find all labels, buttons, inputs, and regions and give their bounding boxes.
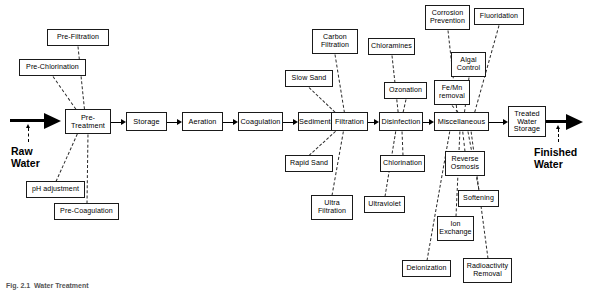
process-box-disinfection[interactable]: Disinfection	[379, 112, 423, 131]
fluoridation-label: Fluoridation	[480, 13, 518, 20]
finished-water-tick-stem	[558, 129, 559, 142]
process-box-miscellaneous[interactable]: Miscellaneous	[434, 112, 489, 131]
filtration-label: Filtration	[335, 118, 364, 126]
disinfection-label: Disinfection	[382, 118, 421, 126]
process-box-storage[interactable]: Storage	[126, 112, 167, 131]
chlorination-label: Chlorination	[383, 160, 422, 167]
aeration-label: Aeration	[189, 118, 217, 126]
corrosion-prevention-label: Corrosion Prevention	[430, 10, 465, 25]
rapid-sand-label: Rapid Sand	[290, 160, 328, 167]
process-box-filtration[interactable]: Filtration	[331, 112, 368, 131]
subprocess-box-pre-coagulation[interactable]: Pre-Coagulation	[54, 203, 119, 220]
subprocess-box-pre-chlorination[interactable]: Pre-Chlorination	[19, 59, 86, 76]
subprocess-box-reverse-osmosis[interactable]: Reverse Osmosis	[445, 151, 485, 176]
subprocess-box-ozonation[interactable]: Ozonation	[384, 82, 427, 99]
dashed-link-ultra-filtration-to-filtration	[332, 131, 344, 195]
finished-water-tick-arrow	[556, 125, 560, 129]
figure-caption: Fig. 2.1 Water Treatment	[6, 282, 89, 289]
dashed-link-pre-coagulation-to-pre-treatment	[86, 134, 88, 203]
dashed-link-carbon-filtration-to-filtration	[335, 54, 345, 112]
subprocess-box-algal-control[interactable]: Algal Control	[451, 52, 486, 77]
subprocess-box-corrosion-prevention[interactable]: Corrosion Prevention	[425, 5, 470, 30]
process-box-coagulation[interactable]: Coagulation	[238, 112, 283, 131]
carbon-filtration-label: Carbon Filtration	[321, 34, 349, 49]
dashed-link-chlorination-to-disinfection	[401, 131, 403, 155]
raw-water-inlet-line	[10, 119, 46, 122]
subprocess-box-ph-adjustment[interactable]: pH adjustment	[26, 181, 85, 198]
pre-coagulation-label: Pre-Coagulation	[60, 208, 113, 215]
raw-water-label: Raw Water	[11, 145, 40, 169]
finished-water-outlet-arrowhead	[566, 114, 583, 130]
dashed-link-ozonation-to-disinfection	[402, 99, 406, 112]
flow-arrow-miscellaneous-to-treated-water-storage	[489, 122, 504, 123]
storage-label: Storage	[133, 118, 159, 126]
process-box-aeration[interactable]: Aeration	[182, 112, 223, 131]
miscellaneous-label: Miscellaneous	[438, 118, 486, 126]
treated-water-storage-label: Treated Water Storage	[514, 110, 540, 133]
fe-mn-removal-label: Fe/Mn removal	[439, 85, 465, 100]
dashed-link-ph-adjustment-to-pre-treatment	[55, 134, 77, 181]
ph-adjustment-label: pH adjustment	[32, 186, 79, 193]
ultraviolet-label: Ultraviolet	[368, 201, 401, 208]
subprocess-box-rapid-sand[interactable]: Rapid Sand	[285, 155, 333, 172]
subprocess-box-radioactivity-removal[interactable]: Radioactivity Removal	[463, 258, 512, 283]
ultra-filtration-label: Ultra Filtration	[318, 200, 346, 215]
slow-sand-label: Slow Sand	[292, 75, 327, 82]
subprocess-box-fe-mn-removal[interactable]: Fe/Mn removal	[434, 80, 470, 105]
raw-water-tick-arrow	[26, 124, 30, 128]
subprocess-box-softening[interactable]: Softening	[458, 190, 499, 207]
process-flow-diagram: Raw Water Finished Water Pre- TreatmentS…	[0, 0, 602, 295]
radioactivity-removal-label: Radioactivity Removal	[467, 263, 509, 278]
process-box-pre-treatment[interactable]: Pre- Treatment	[65, 109, 111, 134]
algal-control-label: Algal Control	[457, 57, 481, 72]
subprocess-box-fluoridation[interactable]: Fluoridation	[474, 8, 524, 25]
pre-filtration-label: Pre-Filtration	[57, 34, 99, 41]
subprocess-box-carbon-filtration[interactable]: Carbon Filtration	[312, 29, 358, 54]
chloramines-label: Chloramines	[371, 43, 412, 50]
pre-chlorination-label: Pre-Chlorination	[26, 64, 79, 71]
subprocess-box-ion-exchange[interactable]: Ion Exchange	[437, 216, 474, 241]
deionization-label: Deionization	[406, 265, 446, 272]
pre-treatment-label: Pre- Treatment	[71, 114, 105, 129]
raw-water-inlet-arrowhead	[44, 113, 61, 129]
ozonation-label: Ozonation	[389, 87, 422, 94]
dashed-link-pre-chlorination-to-pre-treatment	[52, 76, 76, 110]
subprocess-box-slow-sand[interactable]: Slow Sand	[285, 70, 333, 87]
dashed-link-pre-filtration-to-pre-treatment	[78, 46, 85, 109]
subprocess-box-chloramines[interactable]: Chloramines	[368, 38, 415, 55]
process-box-treated-water-storage[interactable]: Treated Water Storage	[508, 106, 546, 137]
dashed-link-reverse-osmosis-to-miscellaneous	[462, 131, 465, 151]
raw-water-tick-stem	[28, 128, 29, 142]
coagulation-label: Coagulation	[240, 118, 280, 126]
subprocess-box-pre-filtration[interactable]: Pre-Filtration	[47, 29, 109, 46]
reverse-osmosis-label: Reverse Osmosis	[451, 156, 479, 171]
softening-label: Softening	[463, 195, 494, 202]
subprocess-box-ultra-filtration[interactable]: Ultra Filtration	[311, 195, 353, 220]
subprocess-box-chlorination[interactable]: Chlorination	[380, 155, 425, 172]
subprocess-box-deionization[interactable]: Deionization	[402, 260, 451, 277]
finished-water-outlet-line	[546, 120, 568, 123]
subprocess-box-ultraviolet[interactable]: Ultraviolet	[364, 196, 405, 213]
dashed-link-slow-sand-to-filtration	[309, 87, 336, 113]
dashed-link-rapid-sand-to-filtration	[309, 131, 336, 156]
ion-exchange-label: Ion Exchange	[439, 221, 471, 236]
finished-water-label: Finished Water	[534, 146, 577, 170]
